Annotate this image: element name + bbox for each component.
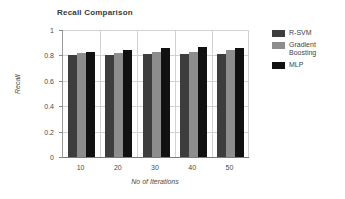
bar[interactable]	[217, 54, 226, 158]
y-tick-label: 1	[28, 27, 54, 34]
x-tick-label: 50	[209, 164, 249, 171]
plot-area	[62, 30, 249, 158]
y-tick-label: 0.6	[28, 77, 54, 84]
legend-label: R-SVM	[289, 29, 312, 38]
bar-group	[175, 30, 212, 157]
y-tick-label: 0.4	[28, 103, 54, 110]
bar[interactable]	[198, 47, 207, 157]
legend-item[interactable]: Gradient Boosting	[272, 41, 342, 58]
bar[interactable]	[152, 52, 161, 157]
bar-group	[212, 30, 249, 157]
legend-label: Gradient Boosting	[289, 41, 316, 58]
x-axis-title: No of Iterations	[62, 178, 248, 185]
legend-swatch	[272, 42, 285, 49]
bar[interactable]	[123, 50, 132, 157]
legend-item[interactable]: MLP	[272, 61, 342, 70]
bar[interactable]	[235, 48, 244, 157]
bar-group	[137, 30, 174, 157]
x-tick-label: 40	[172, 164, 212, 171]
bar[interactable]	[77, 53, 86, 157]
bar[interactable]	[143, 54, 152, 157]
bar-groups	[63, 30, 249, 157]
bar[interactable]	[68, 55, 77, 157]
x-tick-label: 20	[98, 164, 138, 171]
bar[interactable]	[180, 54, 189, 158]
legend-item[interactable]: R-SVM	[272, 29, 342, 38]
bar[interactable]	[161, 48, 170, 157]
legend-swatch	[272, 30, 285, 37]
legend-label: MLP	[289, 61, 303, 70]
bar[interactable]	[105, 55, 114, 157]
bar[interactable]	[189, 52, 198, 157]
y-axis-title: Recall	[14, 75, 21, 94]
bar-group	[100, 30, 137, 157]
y-tick-label: 0.2	[28, 128, 54, 135]
bar[interactable]	[86, 52, 95, 157]
chart-title: Recall Comparison	[57, 8, 133, 17]
bar-group	[63, 30, 100, 157]
recall-comparison-chart: Recall Comparison Recall 00.20.40.60.81 …	[0, 0, 345, 199]
legend-swatch	[272, 62, 285, 69]
bar[interactable]	[114, 53, 123, 157]
y-tick-mark	[59, 157, 63, 158]
y-tick-label: 0	[28, 154, 54, 161]
chart-legend: R-SVMGradient BoostingMLP	[272, 29, 342, 72]
x-tick-label: 10	[61, 164, 101, 171]
x-tick-label: 30	[135, 164, 175, 171]
y-tick-label: 0.8	[28, 52, 54, 59]
bar[interactable]	[226, 50, 235, 157]
